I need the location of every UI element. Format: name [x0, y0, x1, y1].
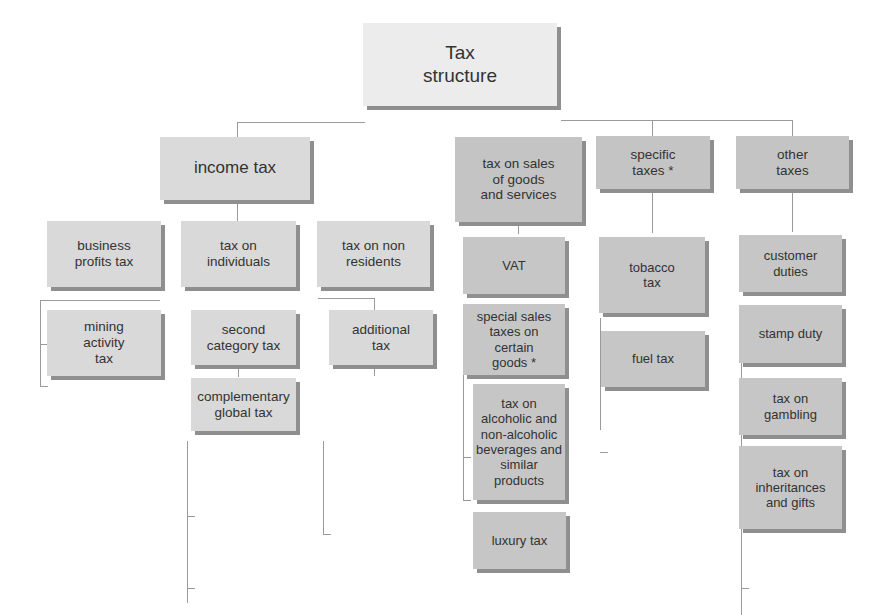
node-second-category-tax: secondcategory tax [191, 310, 296, 365]
node-label: gambling [764, 407, 817, 422]
node-label: tax [83, 351, 124, 367]
node-label: tax [629, 275, 675, 290]
connector [323, 534, 331, 535]
node-luxury-tax: luxury tax [473, 512, 566, 569]
connector [40, 300, 160, 301]
node-label: business [75, 238, 134, 254]
node-label: certain [477, 340, 551, 355]
node-tax-on-gambling: tax ongambling [739, 378, 842, 435]
node-tax-structure: Taxstructure [363, 23, 557, 106]
node-label: taxes * [630, 163, 675, 179]
connector [318, 298, 375, 299]
node-label: alcoholic and [476, 411, 562, 426]
node-label: tax on non [342, 238, 405, 254]
connector [40, 386, 48, 387]
node-tax-on-non-residents: tax on nonresidents [317, 221, 430, 287]
node-specific-taxes: specifictaxes * [596, 136, 710, 189]
node-label: similar [476, 457, 562, 472]
node-label: second [207, 322, 281, 338]
node-label: profits tax [75, 254, 134, 270]
node-label: global tax [197, 405, 289, 421]
node-label: mining [83, 319, 124, 335]
connector [463, 367, 464, 501]
node-label: tax [352, 338, 410, 354]
node-label: and gifts [755, 495, 825, 510]
node-mining-activity-tax: miningactivitytax [47, 310, 161, 376]
node-label: specific [630, 147, 675, 163]
node-label: duties [764, 264, 817, 279]
node-special-sales-taxes: special salestaxes oncertaingoods * [463, 304, 565, 375]
node-label: tax on [207, 238, 270, 254]
node-label: special sales [477, 309, 551, 324]
connector [561, 120, 793, 121]
node-label: activity [83, 335, 124, 351]
node-label: tax on [755, 465, 825, 480]
node-label: income tax [194, 158, 276, 178]
node-label: taxes on [477, 324, 551, 339]
node-label: fuel tax [632, 351, 674, 366]
node-label: tax on sales [481, 156, 557, 172]
connector [463, 457, 471, 458]
node-label: VAT [502, 258, 525, 273]
connector [463, 500, 471, 501]
node-label: of goods [481, 172, 557, 188]
node-label: residents [342, 254, 405, 270]
node-label: individuals [207, 254, 270, 270]
node-label: tax on [476, 396, 562, 411]
node-label: products [476, 473, 562, 488]
node-other-taxes: othertaxes [736, 136, 849, 189]
node-label: customer [764, 248, 817, 263]
node-label: taxes [776, 163, 808, 179]
node-label: goods * [477, 355, 551, 370]
node-tobacco-tax: tobaccotax [599, 237, 705, 313]
connector [187, 588, 195, 589]
node-label: Tax [423, 42, 497, 64]
node-label: inheritances [755, 480, 825, 495]
node-label: beverages and [476, 442, 562, 457]
node-fuel-tax: fuel tax [601, 331, 705, 387]
node-customer-duties: customerduties [739, 235, 842, 292]
node-additional-tax: additionaltax [329, 310, 433, 365]
connector [187, 516, 195, 517]
node-business-profits-tax: businessprofits tax [47, 221, 161, 287]
node-sales-tax: tax on salesof goodsand services [455, 137, 582, 222]
node-label: luxury tax [492, 533, 548, 548]
node-stamp-duty: stamp duty [739, 305, 842, 363]
node-label: tax on [764, 391, 817, 406]
node-label: non-alcoholic [476, 427, 562, 442]
node-complementary-global-tax: complementaryglobal tax [191, 378, 296, 431]
node-label: category tax [207, 338, 281, 354]
node-label: structure [423, 65, 497, 87]
node-label: tobacco [629, 260, 675, 275]
node-tax-on-individuals: tax onindividuals [181, 221, 296, 287]
connector [600, 452, 608, 453]
connector [187, 441, 188, 603]
node-income-tax: income tax [160, 137, 310, 200]
node-label: additional [352, 322, 410, 338]
connector [741, 588, 749, 589]
connector [237, 122, 365, 123]
node-label: stamp duty [759, 326, 823, 341]
node-label: and services [481, 187, 557, 203]
node-label: complementary [197, 389, 289, 405]
node-tax-on-inheritances: tax oninheritancesand gifts [739, 446, 842, 529]
node-vat: VAT [463, 237, 565, 294]
connector [323, 441, 324, 535]
node-beverages-tax: tax onalcoholic andnon-alcoholicbeverage… [473, 384, 565, 500]
node-label: other [776, 147, 808, 163]
